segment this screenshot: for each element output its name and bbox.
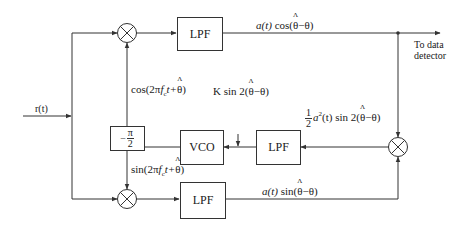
cos-reference-label: cos(2πfct+θ) xyxy=(131,84,186,98)
error-signal-label: 1 2 a2(t) sin 2(θ−θ) xyxy=(305,108,380,129)
lpf-mid-label: LPF xyxy=(268,140,289,155)
vco-label: VCO xyxy=(189,140,214,155)
lpf-top-block: LPF xyxy=(177,17,223,51)
output-destination-label: To data detector xyxy=(414,39,446,61)
top-output-label: a(t) cos(θ−θ) xyxy=(256,20,313,31)
right-mixer-icon xyxy=(389,138,408,157)
vco-block: VCO xyxy=(180,130,224,165)
bottom-mixer-icon xyxy=(118,190,137,209)
top-mixer-icon xyxy=(118,24,137,43)
phase-shift-fraction: π 2 xyxy=(127,128,134,149)
phase-shift-block: − π 2 xyxy=(110,126,145,151)
lpf-bottom-label: LPF xyxy=(193,193,214,208)
junction-dot xyxy=(396,31,400,35)
bottom-output-label: a(t) sin(θ−θ) xyxy=(262,186,318,197)
diagram-wiring xyxy=(0,0,459,233)
lpf-top-label: LPF xyxy=(190,27,211,42)
lpf-mid-block: LPF xyxy=(256,130,301,165)
input-label: r(t) xyxy=(35,104,48,114)
lpf-bottom-block: LPF xyxy=(180,182,226,219)
sin-reference-label: sin(2πfct+θ) xyxy=(131,164,184,178)
vco-control-label: K sin 2(θ−θ) xyxy=(213,86,269,97)
